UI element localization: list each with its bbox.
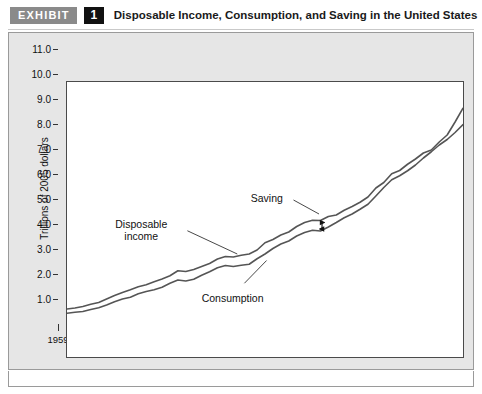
chart-panel: Trillions of 2005 dollars 1.02.03.04.05.… [8,32,474,370]
y-tick-mark [53,224,58,225]
y-tick-label: 1.0 [21,294,51,305]
exhibit-figure: EXHIBIT 1 Disposable Income, Consumption… [0,0,482,394]
exhibit-header: EXHIBIT 1 Disposable Income, Consumption… [0,0,482,30]
y-tick-mark [53,149,58,150]
y-tick-label: 7.0 [21,144,51,155]
y-tick-label: 11.0 [21,44,51,55]
disposable-income-label: Disposable income [104,218,178,242]
y-tick-label: 9.0 [21,94,51,105]
y-tick-mark [53,124,58,125]
disposable-income-label-line1: Disposable [115,218,167,230]
x-tick-mark-major [58,324,59,331]
panel-bottom-strip [8,371,474,387]
exhibit-badge: EXHIBIT [10,7,77,24]
y-tick-label: 8.0 [21,119,51,130]
y-tick-mark [53,199,58,200]
y-tick-mark [53,49,58,50]
exhibit-number-badge: 1 [84,7,104,24]
saving-annotation-group [294,200,323,229]
disposable-income-label-line2: income [124,230,158,242]
y-tick-label: 2.0 [21,269,51,280]
y-tick-mark [53,274,58,275]
y-tick-mark [53,74,58,75]
y-tick-label: 5.0 [21,194,51,205]
plot-area: Disposable income Consumption Saving [66,81,464,358]
y-tick-label: 4.0 [21,219,51,230]
y-tick-mark [53,249,58,250]
y-tick-label: 10.0 [21,69,51,80]
header-divider [8,29,474,30]
saving-label: Saving [251,192,283,204]
saving-leader-line [294,200,320,214]
exhibit-title: Disposable Income, Consumption, and Savi… [114,9,478,21]
y-tick-label: 6.0 [21,169,51,180]
disposable-income-leader-line [187,231,237,254]
y-tick-mark [53,174,58,175]
y-tick-label: 3.0 [21,244,51,255]
y-tick-mark [53,99,58,100]
consumption-label: Consumption [202,292,264,304]
disposable-income-line [67,108,463,309]
y-tick-mark [53,299,58,300]
